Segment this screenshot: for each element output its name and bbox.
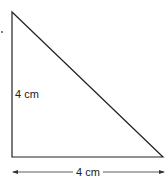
vertical-side-label: 4 cm: [15, 88, 39, 100]
arrowhead-left-icon: [12, 170, 18, 174]
stray-dot: [1, 31, 3, 33]
horizontal-side-label: 4 cm: [73, 166, 103, 178]
arrowhead-right-icon: [159, 170, 165, 174]
right-triangle: [12, 12, 163, 157]
